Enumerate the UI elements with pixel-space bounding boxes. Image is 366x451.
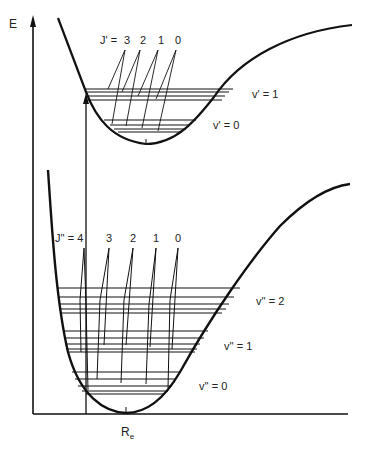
- lower-j-pointers: [80, 248, 178, 390]
- upper-j-0: 0: [175, 34, 181, 46]
- potential-curves-svg: [0, 0, 366, 451]
- lower-j-label: J'' = 4: [55, 232, 83, 244]
- lower-potential-curve: [48, 170, 350, 413]
- energy-axis-label: E: [9, 18, 17, 30]
- upper-j-1: 1: [158, 34, 164, 46]
- lower-j-3: 3: [106, 232, 112, 244]
- lower-j-2: 2: [130, 232, 136, 244]
- upper-j-3: 3: [124, 34, 130, 46]
- lower-v0-label: v'' = 0: [199, 380, 227, 392]
- upper-v1-label: v' = 1: [252, 88, 278, 100]
- lower-v2-label: v'' = 2: [256, 295, 284, 307]
- upper-v0-label: v' = 0: [213, 119, 239, 131]
- upper-j-2: 2: [140, 34, 146, 46]
- re-subscript: e: [130, 432, 134, 441]
- lower-v1-rotational-levels: [63, 331, 208, 352]
- lower-j-0: 0: [175, 232, 181, 244]
- re-main: R: [121, 425, 130, 439]
- lower-j-1: 1: [153, 232, 159, 244]
- energy-axis-arrowhead: [30, 15, 36, 27]
- equilibrium-distance-label: Re: [121, 426, 134, 440]
- upper-j-pointers: [108, 50, 176, 131]
- upper-j-label: J' =: [100, 34, 117, 46]
- lower-v1-label: v'' = 1: [224, 340, 252, 352]
